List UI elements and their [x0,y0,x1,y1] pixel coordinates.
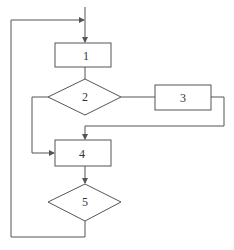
edge-2-4 [32,97,54,153]
flowchart: 1 2 3 4 5 [0,0,234,250]
node-1-label: 1 [83,49,89,63]
node-2-label: 2 [82,90,88,104]
node-4-label: 4 [79,147,85,161]
node-3-label: 3 [180,91,186,105]
node-5-label: 5 [82,195,88,209]
